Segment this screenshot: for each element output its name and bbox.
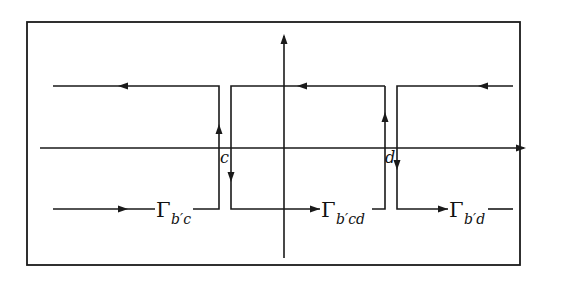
imaginary-axis bbox=[281, 34, 288, 258]
arrow-up-icon bbox=[281, 34, 288, 44]
label-gamma-b-prime-cd: Γ b′cd bbox=[321, 198, 365, 227]
point-c-label: c bbox=[220, 148, 229, 167]
label-gamma-b-prime-d: Γ b′d bbox=[449, 198, 485, 227]
svg-text:b′cd: b′cd bbox=[336, 211, 365, 227]
diagram-frame bbox=[27, 22, 520, 265]
real-axis bbox=[40, 145, 526, 152]
arrow-left-icon bbox=[297, 83, 307, 90]
svg-text:Γ: Γ bbox=[449, 198, 464, 222]
arrow-up-icon bbox=[382, 112, 389, 122]
arrow-right-icon bbox=[516, 145, 526, 152]
label-gamma-b-prime-c: Γ b′c bbox=[156, 198, 191, 227]
arrow-left-icon bbox=[118, 83, 128, 90]
arrow-up-icon bbox=[216, 124, 223, 134]
svg-text:Γ: Γ bbox=[156, 198, 171, 222]
svg-text:b′c: b′c bbox=[171, 211, 191, 227]
arrow-right-icon bbox=[118, 206, 128, 213]
arrow-left-icon bbox=[478, 83, 488, 90]
svg-text:b′d: b′d bbox=[464, 211, 485, 227]
contour-diagram: c d Γ b′c Γ b′cd Γ b′d bbox=[0, 0, 561, 285]
arrow-right-icon bbox=[310, 206, 320, 213]
arrow-down-icon bbox=[228, 172, 235, 182]
arrow-right-icon bbox=[438, 206, 448, 213]
point-d-label: d bbox=[385, 148, 395, 167]
svg-text:Γ: Γ bbox=[321, 198, 336, 222]
